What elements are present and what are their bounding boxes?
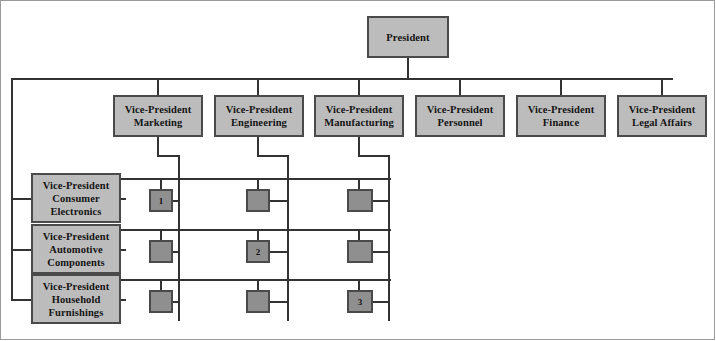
connector-president-stem (407, 57, 409, 79)
matrix-cell-consumer-marketing[interactable]: 1 (149, 189, 173, 212)
connector-row3-cell3-out (372, 301, 390, 303)
node-vp-engineering[interactable]: Vice-President Engineering (214, 95, 304, 137)
node-vp-consumer-electronics-line-1: Vice-President (43, 179, 110, 192)
connector-drop-legal (661, 78, 663, 96)
connector-main-bus (11, 78, 673, 80)
node-vp-finance-line-1: Vice-President (528, 103, 595, 116)
node-vp-consumer-electronics[interactable]: Vice-President Consumer Electronics (31, 173, 121, 223)
connector-stub-consumer (11, 198, 33, 200)
connector-stub-household (11, 299, 33, 301)
node-vp-marketing[interactable]: Vice-President Marketing (113, 95, 203, 137)
connector-drop-engineering (257, 78, 259, 96)
connector-drop-finance (560, 78, 562, 96)
connector-manufacturing-jog (358, 155, 390, 157)
connector-marketing-stem (157, 137, 159, 156)
node-vp-household-furnishings-line-2: Household (52, 293, 101, 306)
matrix-cell-household-marketing[interactable] (149, 290, 173, 313)
node-president-line-1: President (386, 31, 429, 44)
node-vp-marketing-line-1: Vice-President (125, 103, 192, 116)
node-vp-engineering-line-2: Engineering (231, 116, 287, 129)
connector-drop-manufacturing (358, 78, 360, 96)
matrix-cell-consumer-engineering[interactable] (246, 189, 270, 212)
matrix-cell-consumer-manufacturing[interactable] (347, 189, 373, 212)
node-vp-personnel-line-2: Personnel (437, 116, 482, 129)
node-vp-automotive-components-line-3: Components (47, 256, 105, 269)
connector-row1-cell2-out (269, 200, 289, 202)
connector-left-spine (11, 78, 13, 300)
node-vp-manufacturing-line-2: Manufacturing (324, 116, 394, 129)
node-vp-automotive-components[interactable]: Vice-President Automotive Components (31, 224, 121, 274)
connector-engineering-jog (257, 155, 289, 157)
matrix-org-chart: President Vice-President Marketing Vice-… (0, 0, 716, 341)
node-vp-marketing-line-2: Marketing (134, 116, 183, 129)
matrix-cell-automotive-marketing[interactable] (149, 240, 173, 263)
connector-row3-cell1-out (172, 301, 180, 303)
node-vp-legal-affairs-line-2: Legal Affairs (632, 116, 692, 129)
connector-row2-cell1-out (172, 251, 180, 253)
node-vp-legal-affairs-line-1: Vice-President (629, 103, 696, 116)
node-vp-finance-line-2: Finance (543, 116, 579, 129)
node-vp-personnel[interactable]: Vice-President Personnel (415, 95, 505, 137)
connector-row2-cell3-out (372, 251, 390, 253)
connector-row3-cell2-out (269, 301, 289, 303)
matrix-cell-household-engineering[interactable] (246, 290, 270, 313)
node-vp-consumer-electronics-line-2: Consumer (52, 192, 99, 205)
connector-drop-personnel (459, 78, 461, 96)
connector-row1-cell1-out (172, 200, 180, 202)
connector-row1-cell3-out (372, 200, 390, 202)
node-vp-automotive-components-line-1: Vice-President (43, 230, 110, 243)
connector-drop-marketing (157, 78, 159, 96)
connector-stub-automotive (11, 249, 33, 251)
node-vp-manufacturing-line-1: Vice-President (326, 103, 393, 116)
matrix-cell-household-manufacturing[interactable]: 3 (347, 290, 373, 313)
node-vp-automotive-components-line-2: Automotive (49, 243, 103, 256)
node-vp-household-furnishings-line-1: Vice-President (43, 280, 110, 293)
node-vp-consumer-electronics-line-3: Electronics (50, 205, 101, 218)
node-vp-legal-affairs[interactable]: Vice-President Legal Affairs (617, 95, 707, 137)
node-vp-manufacturing[interactable]: Vice-President Manufacturing (314, 95, 404, 137)
node-vp-engineering-line-1: Vice-President (226, 103, 293, 116)
connector-manufacturing-stem (358, 137, 360, 156)
connector-row2-cell2-out (269, 251, 289, 253)
connector-engineering-stem (257, 137, 259, 156)
matrix-cell-automotive-manufacturing[interactable] (347, 240, 373, 263)
connector-marketing-jog (157, 155, 180, 157)
node-vp-household-furnishings[interactable]: Vice-President Household Furnishings (31, 274, 121, 324)
node-vp-personnel-line-1: Vice-President (427, 103, 494, 116)
node-president[interactable]: President (367, 16, 449, 58)
matrix-cell-automotive-engineering[interactable]: 2 (246, 240, 270, 263)
node-vp-household-furnishings-line-3: Furnishings (49, 306, 104, 319)
node-vp-finance[interactable]: Vice-President Finance (516, 95, 606, 137)
